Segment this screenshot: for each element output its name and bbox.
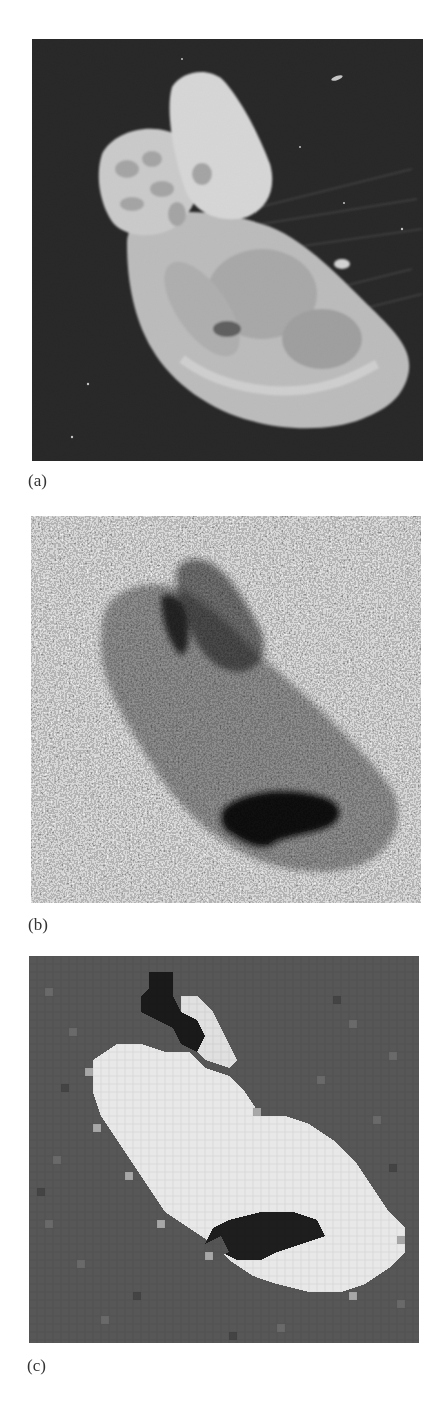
panel-label-a: (a) bbox=[28, 472, 47, 489]
figure-panel-b bbox=[31, 516, 421, 903]
panel-label-c: (c) bbox=[27, 1357, 46, 1374]
panel-label-b: (b) bbox=[28, 916, 48, 933]
brain-section-image-a bbox=[32, 39, 423, 461]
brain-section-image-b bbox=[31, 516, 421, 903]
brain-section-image-c bbox=[29, 956, 419, 1343]
figure-panel-c bbox=[29, 956, 419, 1343]
figure-panel-a bbox=[32, 39, 423, 461]
